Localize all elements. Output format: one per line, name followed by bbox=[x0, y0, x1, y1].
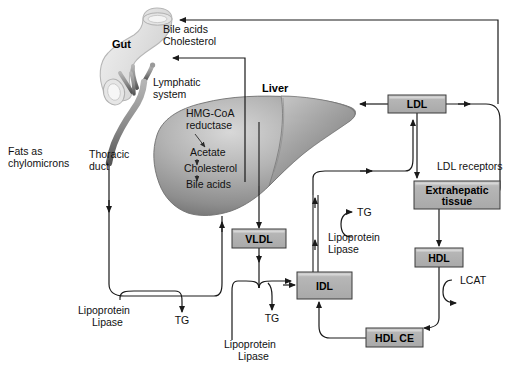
flow-lipase-low-input bbox=[232, 281, 259, 340]
flow-hdl-to-hdlce bbox=[424, 267, 439, 328]
ldl-node[interactable]: LDL bbox=[388, 95, 446, 113]
reductase-label: reductase bbox=[186, 119, 232, 131]
flow-liver-to-gut-upper bbox=[180, 20, 498, 90]
hdl-label: HDL bbox=[428, 252, 450, 264]
flow-up-to-ldl bbox=[405, 120, 413, 171]
tg-mid-label: TG bbox=[357, 206, 372, 218]
lcat-label: LCAT bbox=[460, 274, 487, 286]
chylomicrons-label: chylomicrons bbox=[8, 157, 69, 169]
diagram-canvas: LDL Extrahepatic tissue VLDL HDL bbox=[0, 0, 516, 368]
lipoprotein-low-label: Lipoprotein bbox=[224, 338, 276, 350]
extrahepatic-label-line2: tissue bbox=[442, 195, 473, 207]
lipase-left-label: Lipase bbox=[92, 316, 123, 328]
lipase-low-label: Lipase bbox=[238, 350, 269, 362]
flow-vldl-to-tg-low bbox=[268, 283, 272, 310]
lipoprotein-metabolism-diagram: LDL Extrahepatic tissue VLDL HDL bbox=[0, 0, 516, 368]
lipase-mid-label: Lipase bbox=[328, 243, 359, 255]
flow-lcat-branch bbox=[443, 280, 456, 303]
hmg-coa-label: HMG-CoA bbox=[186, 107, 234, 119]
bile-acids-liver-label: Bile acids bbox=[186, 178, 231, 190]
bile-acids-label: Bile acids bbox=[163, 23, 208, 35]
tg-low-label: TG bbox=[265, 312, 280, 324]
idl-label: IDL bbox=[316, 280, 334, 292]
extrahepatic-label-line1: Extrahepatic bbox=[425, 184, 488, 196]
hdl-node[interactable]: HDL bbox=[415, 248, 463, 267]
cholesterol-gut-label: Cholesterol bbox=[163, 35, 216, 47]
idl-node[interactable]: IDL bbox=[297, 272, 352, 299]
gut-label: Gut bbox=[112, 38, 131, 50]
liver-label: Liver bbox=[262, 82, 289, 94]
lymphatic-label-line2: system bbox=[153, 88, 187, 100]
ldl-receptors-label: LDL receptors bbox=[437, 160, 503, 172]
hdlce-node[interactable]: HDL CE bbox=[366, 328, 423, 347]
lipoprotein-left-label: Lipoprotein bbox=[78, 304, 130, 316]
thoracic-label-line2: duct bbox=[89, 160, 109, 172]
lipoprotein-mid-label: Lipoprotein bbox=[328, 231, 380, 243]
idl-box-highlight bbox=[299, 274, 351, 276]
extrahepatic-node[interactable]: Extrahepatic tissue bbox=[414, 181, 500, 209]
cholesterol-liver-label: Cholesterol bbox=[184, 162, 237, 174]
hdlce-label: HDL CE bbox=[375, 332, 414, 344]
lymphatic-branch-1 bbox=[145, 66, 152, 80]
flow-idl-to-ldl-path bbox=[313, 171, 405, 195]
lymphatic-label-line1: Lymphatic bbox=[153, 76, 200, 88]
thoracic-label-line1: Thoracic bbox=[89, 148, 129, 160]
vldl-node[interactable]: VLDL bbox=[232, 229, 286, 248]
flow-hdlce-to-idl bbox=[319, 302, 366, 338]
ldl-label: LDL bbox=[407, 98, 428, 110]
gut-upper-lumen bbox=[148, 15, 167, 22]
acetate-label: Acetate bbox=[190, 146, 226, 158]
liver-organ bbox=[154, 96, 356, 215]
tg-left-label: TG bbox=[175, 314, 190, 326]
vldl-label: VLDL bbox=[245, 233, 273, 245]
fats-as-label: Fats as bbox=[8, 145, 42, 157]
lymphatic-node-1 bbox=[150, 62, 155, 67]
